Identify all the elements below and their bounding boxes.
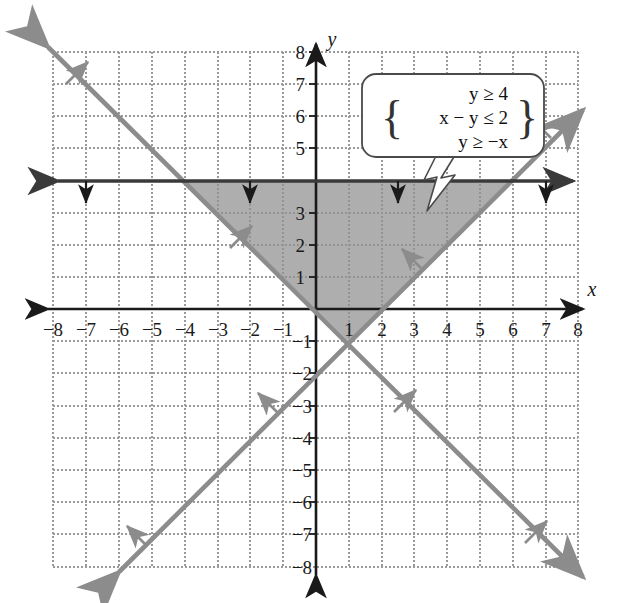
x-tick-label: 1 [344, 319, 354, 340]
x-tick-labels: −8 −7 −6 −5 −4 −3 −2 −1 1 2 3 4 5 6 7 8 [43, 319, 583, 340]
x-tick-label: −4 [175, 319, 196, 340]
x-tick-label: 4 [442, 319, 452, 340]
y-tick-label: −4 [292, 428, 313, 449]
y-tick-label: −2 [292, 363, 312, 384]
x-tick-label: −2 [240, 319, 260, 340]
y-tick-label: −3 [292, 396, 312, 417]
coordinate-plane-svg: −8 −7 −6 −5 −4 −3 −2 −1 1 2 3 4 5 6 7 8 … [0, 0, 625, 603]
graph-figure: −8 −7 −6 −5 −4 −3 −2 −1 1 2 3 4 5 6 7 8 … [0, 0, 625, 603]
x-tick-label: 7 [541, 319, 551, 340]
x-axis-label: x [587, 278, 597, 300]
y-tick-label: 2 [296, 235, 306, 256]
x-tick-label: −7 [76, 319, 96, 340]
y-tick-label: 8 [296, 42, 306, 63]
inequality-line-3: y ≥ −x [458, 131, 508, 152]
y-tick-label: 1 [296, 267, 306, 288]
y-tick-label: −7 [292, 524, 312, 545]
inequality-line-1: y ≥ 4 [469, 83, 508, 104]
y-tick-label: −1 [292, 331, 312, 352]
x-tick-label: −5 [142, 319, 162, 340]
y-tick-label: −8 [292, 557, 312, 578]
x-tick-label: −1 [273, 319, 293, 340]
y-tick-label: −6 [292, 492, 312, 513]
y-tick-label: 3 [296, 203, 306, 224]
y-tick-label: 5 [296, 138, 306, 159]
y-tick-label: 6 [296, 106, 306, 127]
callout-right-brace: } [516, 92, 538, 143]
y-tick-label: −5 [292, 460, 312, 481]
x-tick-label: 8 [573, 319, 583, 340]
x-tick-label: 5 [475, 319, 485, 340]
x-tick-label: 3 [409, 319, 419, 340]
x-tick-label: −6 [109, 319, 129, 340]
callout-left-brace: { [381, 92, 403, 143]
x-tick-label: −8 [43, 319, 63, 340]
y-axis-label: y [326, 28, 337, 51]
shaded-solution-region [185, 181, 513, 342]
inequality-line-2: x − y ≤ 2 [439, 107, 508, 128]
x-tick-label: 6 [508, 319, 518, 340]
x-tick-label: −3 [208, 319, 228, 340]
x-tick-label: 2 [377, 319, 387, 340]
y-tick-label: 7 [296, 74, 306, 95]
